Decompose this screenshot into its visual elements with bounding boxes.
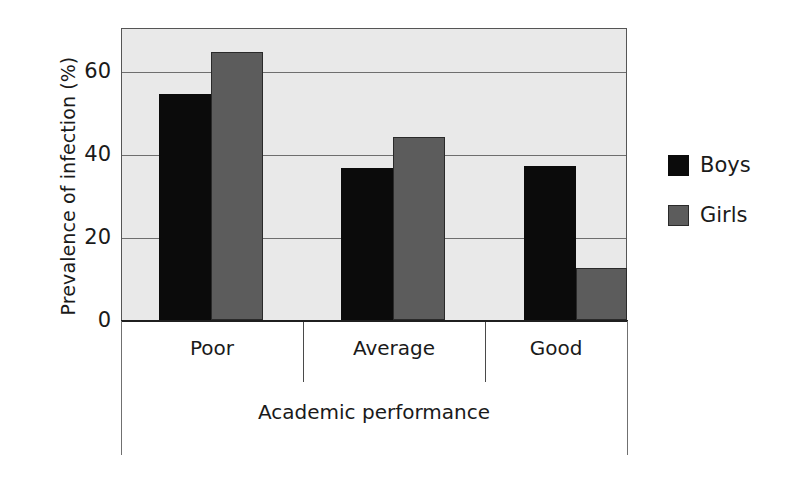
x-axis-title: Academic performance xyxy=(121,402,627,422)
bar-good-girls xyxy=(576,268,627,320)
gridline-60 xyxy=(122,72,626,73)
x-tick-label-average: Average xyxy=(309,338,479,358)
plot-area xyxy=(121,28,627,321)
legend-label-boys: Boys xyxy=(700,155,751,176)
x-tick-label-good: Good xyxy=(471,338,641,358)
bar-chart-figure: Prevalence of infection (%) 60 40 20 0 P… xyxy=(0,0,797,480)
y-tick-label-0: 0 xyxy=(51,310,111,331)
bar-poor-girls xyxy=(211,52,263,320)
bar-average-girls xyxy=(393,137,445,320)
y-tick-label-40: 40 xyxy=(51,144,111,165)
category-separator-1 xyxy=(303,322,304,382)
legend-item-boys: Boys xyxy=(668,155,751,176)
bar-poor-boys xyxy=(159,94,211,320)
y-tick-label-20: 20 xyxy=(51,227,111,248)
x-axis-left-extension xyxy=(121,321,122,455)
legend-swatch-boys-icon xyxy=(668,155,689,176)
bar-average-boys xyxy=(341,168,393,320)
legend-item-girls: Girls xyxy=(668,205,748,226)
bar-good-boys xyxy=(524,166,576,320)
legend-label-girls: Girls xyxy=(700,205,748,226)
legend-swatch-girls-icon xyxy=(668,205,689,226)
x-axis-line xyxy=(121,320,628,322)
x-tick-label-poor: Poor xyxy=(127,338,297,358)
y-tick-label-60: 60 xyxy=(51,61,111,82)
